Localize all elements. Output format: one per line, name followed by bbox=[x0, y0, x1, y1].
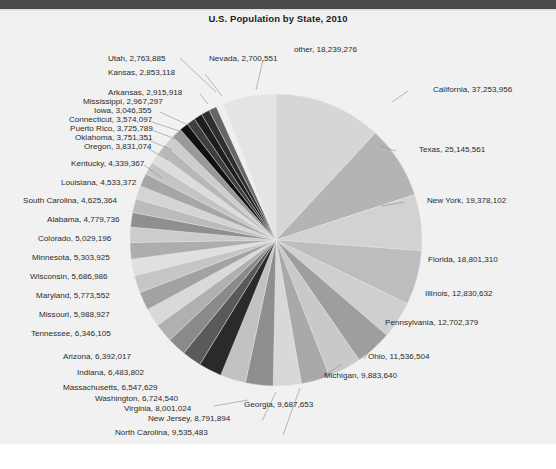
slice-label-other: other, 18,239,276 bbox=[294, 45, 357, 55]
slice-label-minnesota: Minnesota, 5,303,925 bbox=[32, 253, 110, 263]
slice-label-pennsylvania: Pennsylvania, 12,702,379 bbox=[385, 318, 478, 328]
slice-label-georgia: Georgia, 9,687,653 bbox=[244, 400, 313, 410]
slice-label-louisiana: Louisiana, 4,533,372 bbox=[61, 178, 136, 188]
slice-label-california: California, 37,253,956 bbox=[433, 85, 512, 95]
slice-label-michigan: Michigan, 9,883,640 bbox=[324, 371, 397, 381]
slice-label-missouri: Missouri, 5,988,927 bbox=[39, 310, 110, 320]
slice-label-ohio: Ohio, 11,536,504 bbox=[368, 352, 430, 362]
slice-label-texas: Texas, 25,145,561 bbox=[419, 145, 485, 155]
slice-label-florida: Florida, 18,801,310 bbox=[428, 255, 498, 265]
slice-label-north-carolina: North Carolina, 9,535,483 bbox=[115, 428, 208, 438]
slice-label-kansas: Kansas, 2,853,118 bbox=[108, 68, 175, 78]
slice-label-new-jersey: New Jersey, 8,791,894 bbox=[148, 414, 230, 424]
slice-label-virginia: Virginia, 8,001,024 bbox=[124, 404, 191, 414]
slice-label-new-york: New York, 19,378,102 bbox=[427, 196, 506, 206]
slice-label-south-carolina: South Carolina, 4,625,364 bbox=[23, 196, 117, 206]
slice-label-indiana: Indiana, 6,483,802 bbox=[77, 368, 144, 378]
slice-label-kentucky: Kentucky, 4,339,367 bbox=[71, 159, 144, 169]
pie-chart[interactable] bbox=[130, 94, 422, 386]
page-title: U.S. Population by State, 2010 bbox=[0, 13, 556, 24]
slice-label-washington: Washington, 6,724,540 bbox=[95, 394, 178, 404]
slice-label-wisconsin: Wisconsin, 5,686,986 bbox=[30, 272, 107, 282]
pie-chart-svg bbox=[130, 94, 422, 386]
footer-panel bbox=[0, 444, 556, 469]
slice-label-tennessee: Tennessee, 6,346,105 bbox=[31, 329, 111, 339]
slice-label-alabama: Alabama, 4,779,736 bbox=[47, 215, 119, 225]
slice-label-colorado: Colorado, 5,029,196 bbox=[38, 234, 111, 244]
slice-label-utah: Utah, 2,763,885 bbox=[108, 54, 166, 64]
slice-label-illinois: Illinois, 12,830,632 bbox=[425, 289, 493, 299]
pie-slice-group bbox=[130, 94, 422, 386]
slice-label-arizona: Arizona, 6,392,017 bbox=[63, 352, 131, 362]
slice-label-oregon: Oregon, 3,831,074 bbox=[84, 142, 152, 152]
slice-label-massachusetts: Massachusetts, 6,547,629 bbox=[63, 383, 158, 393]
slice-label-maryland: Maryland, 5,773,552 bbox=[36, 291, 110, 301]
slice-label-nevada: Nevada, 2,700,551 bbox=[209, 54, 277, 64]
window-top-bar bbox=[0, 0, 556, 9]
